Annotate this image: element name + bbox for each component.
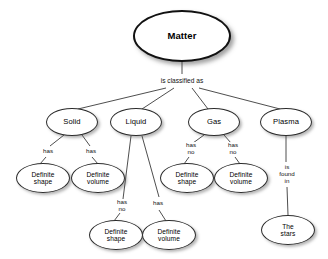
node-solid-shape[interactable]: Definite shape (16, 163, 70, 193)
node-solid-label: Solid (61, 118, 82, 126)
edge-solid-to-solid-has-1 (50, 135, 64, 146)
node-liquid-shape-label: Definite shape (102, 228, 129, 242)
edge-solid-to-solid-has-2 (82, 135, 90, 146)
node-solid-volume[interactable]: Definite volume (71, 163, 125, 193)
edge-label-solid-has-1: has (42, 148, 54, 155)
edge-classified-label-to-liquid (142, 88, 174, 109)
node-solid-volume-label: Definite volume (84, 171, 111, 185)
edge-classified-label-to-solid (78, 88, 166, 109)
node-solid[interactable]: Solid (46, 108, 98, 136)
edge-plasma-found-to-the-stars (287, 187, 288, 215)
node-plasma[interactable]: Plasma (260, 108, 312, 136)
edge-classified-label-to-plasma (199, 88, 280, 109)
edge-label-liquid-has: has (152, 200, 164, 207)
node-gas-shape-label: Definite shape (173, 171, 200, 185)
node-gas-shape[interactable]: Definite shape (160, 163, 214, 193)
node-gas-volume-label: Definite volume (227, 171, 254, 185)
edge-label-gas-hasno-1: has no (185, 142, 197, 156)
concept-map-canvas: MatterSolidLiquidGasPlasmaDefinite shape… (0, 0, 328, 259)
edge-label-plasma-found: is found in (278, 164, 295, 185)
node-gas[interactable]: Gas (188, 108, 240, 136)
edge-label-classified: is classified as (160, 77, 205, 84)
edge-label-gas-hasno-2: has no (227, 142, 239, 156)
edge-classified-label-to-gas (192, 88, 208, 109)
edge-label-liquid-hasno: has no (116, 199, 128, 213)
node-the-stars[interactable]: The stars (261, 215, 315, 245)
edge-liquid-to-liquid-has (142, 136, 159, 197)
node-liquid[interactable]: Liquid (110, 108, 162, 136)
edge-liquid-to-liquid-hasno (123, 136, 131, 199)
node-liquid-volume[interactable]: Definite volume (142, 220, 196, 250)
node-liquid-label: Liquid (124, 118, 149, 126)
node-liquid-volume-label: Definite volume (155, 228, 182, 242)
node-matter-label: Matter (165, 31, 198, 41)
node-plasma-label: Plasma (271, 118, 301, 126)
node-solid-shape-label: Definite shape (29, 171, 56, 185)
node-liquid-shape[interactable]: Definite shape (89, 220, 143, 250)
node-gas-volume[interactable]: Definite volume (214, 163, 268, 193)
node-the-stars-label: The stars (279, 223, 298, 237)
node-gas-label: Gas (205, 118, 223, 126)
node-matter[interactable]: Matter (133, 10, 231, 62)
edge-label-solid-has-2: has (85, 148, 97, 155)
